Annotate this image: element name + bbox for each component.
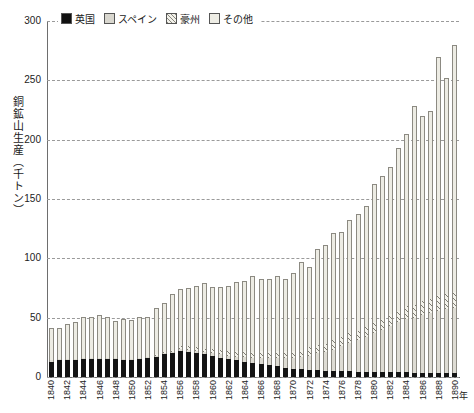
- bar-segment-aus: [307, 347, 312, 355]
- bar-segment-aus: [412, 305, 417, 318]
- bar-segment-uk: [444, 373, 449, 377]
- bar-segment-other: [210, 287, 215, 349]
- legend-swatch-spain-icon: [104, 13, 115, 24]
- bar-segment-uk: [186, 352, 191, 377]
- legend-label-aus: 豪州: [180, 11, 200, 26]
- x-tick-label-1864: 1864: [240, 380, 250, 400]
- bar-1846: [97, 315, 102, 377]
- bar-1861: [218, 287, 223, 377]
- bar-segment-other: [428, 111, 433, 298]
- bar-segment-aus: [380, 319, 385, 330]
- x-tick-label-1872: 1872: [305, 380, 315, 400]
- bar-segment-other: [226, 286, 231, 351]
- bar-1856: [178, 289, 183, 377]
- bar-1890: [452, 45, 457, 377]
- x-tick-label-1868: 1868: [272, 380, 282, 400]
- bar-segment-uk: [259, 364, 264, 377]
- bar-segment-uk: [404, 372, 409, 377]
- bar-segment-other: [412, 106, 417, 304]
- bar-segment-other: [299, 262, 304, 350]
- bar-segment-other: [267, 279, 272, 351]
- bar-segment-uk: [436, 373, 441, 377]
- bar-segment-other: [129, 320, 134, 359]
- bar-segment-uk: [380, 372, 385, 377]
- bar-segment-other: [388, 167, 393, 314]
- bar-segment-spain: [299, 357, 304, 369]
- bar-segment-other: [259, 279, 264, 351]
- bar-segment-other: [250, 276, 255, 352]
- bar-segment-uk: [57, 360, 62, 377]
- bar-segment-spain: [380, 330, 385, 373]
- bar-1850: [129, 320, 134, 377]
- bar-segment-aus: [444, 294, 449, 309]
- bar-segment-aus: [436, 295, 441, 310]
- bar-segment-spain: [291, 358, 296, 369]
- bar-segment-spain: [452, 308, 457, 373]
- bar-segment-uk: [331, 371, 336, 377]
- bar-1843: [73, 322, 78, 377]
- y-tick-label: 300: [0, 15, 41, 26]
- bar-1847: [105, 316, 110, 377]
- bar-segment-uk: [452, 373, 457, 377]
- x-tick-label-1844: 1844: [78, 380, 88, 400]
- bar-1865: [250, 276, 255, 377]
- bar-1859: [202, 283, 207, 377]
- bar-segment-spain: [275, 358, 280, 366]
- bar-segment-spain: [267, 358, 272, 365]
- bar-segment-aus: [259, 351, 264, 358]
- bar-segment-aus: [283, 351, 288, 358]
- bar-segment-uk: [178, 351, 183, 377]
- bar-segment-other: [315, 249, 320, 345]
- bar-segment-uk: [412, 373, 417, 377]
- bar-1885: [412, 106, 417, 377]
- bar-segment-aus: [315, 345, 320, 353]
- bar-segment-other: [113, 321, 118, 358]
- legend-item-uk: 英国: [61, 11, 95, 26]
- bar-segment-uk: [170, 353, 175, 377]
- bar-segment-other: [372, 184, 377, 323]
- legend-swatch-aus-icon: [166, 13, 177, 24]
- bar-segment-spain: [364, 337, 369, 373]
- bar-1845: [89, 316, 94, 377]
- bar-segment-spain: [388, 326, 393, 372]
- bar-segment-aus: [356, 331, 361, 340]
- bar-segment-uk: [81, 359, 86, 377]
- y-tick-label: 150: [0, 193, 41, 204]
- x-tick-label-1858: 1858: [191, 380, 201, 400]
- bar-1869: [283, 279, 288, 377]
- bar-1866: [259, 279, 264, 377]
- bar-segment-uk: [89, 359, 94, 377]
- bar-segment-aus: [291, 351, 296, 358]
- y-tick-label: 50: [0, 312, 41, 323]
- bar-segment-uk: [234, 360, 239, 377]
- legend-item-aus: 豪州: [166, 11, 200, 26]
- bar-segment-uk: [250, 363, 255, 377]
- bar-1841: [57, 328, 62, 377]
- legend-item-spain: スペイン: [104, 11, 157, 26]
- bar-segment-uk: [307, 370, 312, 377]
- bar-segment-uk: [194, 353, 199, 377]
- bar-segment-uk: [137, 359, 142, 377]
- bar-segment-other: [234, 282, 239, 351]
- x-tick-label-1880: 1880: [369, 380, 379, 400]
- bar-segment-aus: [323, 344, 328, 352]
- x-tick-label-1860: 1860: [208, 380, 218, 400]
- bar-segment-spain: [428, 313, 433, 374]
- bar-segment-other: [339, 232, 344, 336]
- bar-segment-other: [347, 220, 352, 333]
- x-tick-label-1852: 1852: [143, 380, 153, 400]
- bar-1886: [420, 116, 425, 377]
- bar-segment-other: [137, 317, 142, 359]
- bar-segment-aus: [267, 351, 272, 358]
- bar-segment-uk: [364, 372, 369, 377]
- bar-segment-uk: [283, 368, 288, 377]
- bar-segment-other: [331, 233, 336, 340]
- bar-1873: [315, 249, 320, 377]
- bar-segment-other: [420, 116, 425, 301]
- bar-segment-other: [444, 78, 449, 294]
- bar-1876: [339, 232, 344, 377]
- plot-area: [47, 21, 459, 377]
- x-tick-label-1846: 1846: [95, 380, 105, 400]
- bar-1872: [307, 267, 312, 377]
- bar-segment-uk: [145, 358, 150, 377]
